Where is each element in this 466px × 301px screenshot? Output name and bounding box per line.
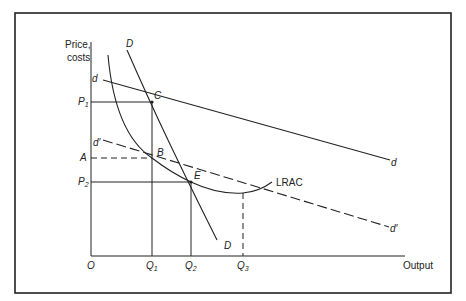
point-e-marker xyxy=(189,180,192,183)
x-axis-label: Output xyxy=(403,260,433,271)
q1-label: Q1 xyxy=(146,260,158,272)
point-b-label: B xyxy=(157,147,164,158)
shifted-demand-label-left: d′ xyxy=(93,137,102,148)
p1-label: P1 xyxy=(78,96,89,108)
shifted-demand-label-right: d′ xyxy=(390,223,399,234)
origin-label: O xyxy=(87,260,95,271)
p2-label: P2 xyxy=(78,176,89,188)
market-demand-curve xyxy=(127,50,217,240)
market-demand-label-bottom: D xyxy=(224,240,231,251)
economics-diagram: Price, costs Output O P1 A P2 Q1 Q2 Q3 C… xyxy=(0,0,466,301)
y-axis-label-line2: costs xyxy=(67,52,90,63)
q3-label: Q3 xyxy=(237,260,249,272)
point-e-label: E xyxy=(194,170,201,181)
lrac-label: LRAC xyxy=(276,177,303,188)
a-label: A xyxy=(79,152,87,163)
firm-demand-label-left: d xyxy=(92,73,98,84)
q2-label: Q2 xyxy=(185,260,197,272)
firm-demand-curve-d xyxy=(103,80,390,160)
y-axis-label-line1: Price, xyxy=(65,39,91,50)
firm-demand-label-right: d xyxy=(391,157,397,168)
lrac-curve xyxy=(108,55,272,193)
point-c-label: C xyxy=(154,90,162,101)
market-demand-label-top: D xyxy=(126,38,133,49)
